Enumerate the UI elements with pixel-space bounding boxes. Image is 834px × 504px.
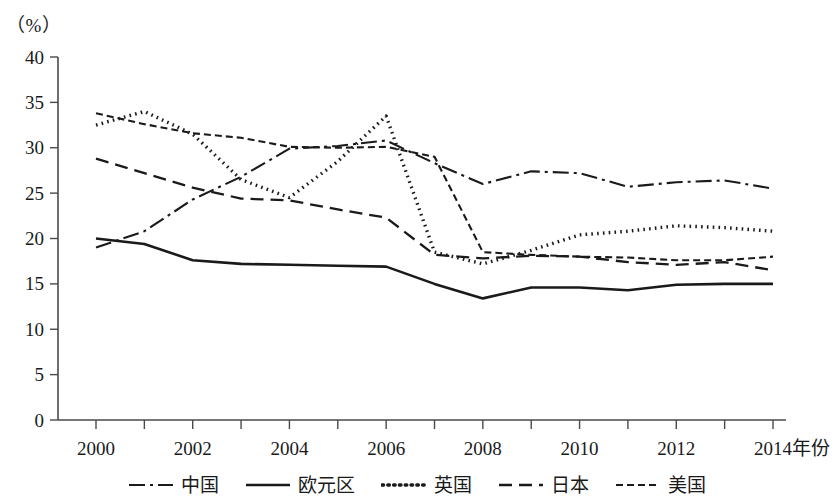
legend-line-swatch: [245, 478, 291, 492]
legend-label: 中国: [181, 476, 219, 495]
legend-item[interactable]: 英国: [381, 476, 472, 495]
chart-legend: 中国欧元区英国日本美国: [0, 466, 834, 504]
y-tick-label: 35: [25, 92, 44, 113]
legend-item[interactable]: 欧元区: [245, 476, 355, 495]
x-tick-label: 2004: [270, 438, 309, 459]
legend-label: 美国: [668, 476, 706, 495]
y-tick-label: 0: [35, 410, 45, 431]
x-tick-label: 2000: [77, 438, 115, 459]
y-tick-label: 20: [25, 228, 44, 249]
x-tick-label: 2010: [561, 438, 599, 459]
y-tick-label: 5: [35, 364, 45, 385]
x-axis: 20002002200420062008201020122014: [58, 420, 793, 459]
legend-line-swatch: [615, 478, 661, 492]
legend-line-swatch: [381, 478, 427, 492]
y-tick-label: 10: [25, 319, 44, 340]
series-line: [96, 113, 773, 260]
plot-area: 0510152025303540 20002002200420062008201…: [0, 0, 834, 466]
x-tick-label: 2002: [174, 438, 212, 459]
y-tick-label: 25: [25, 183, 44, 204]
legend-label: 日本: [551, 476, 589, 495]
y-tick-label: 15: [25, 273, 44, 294]
legend-item[interactable]: 日本: [498, 476, 589, 495]
legend-item[interactable]: 中国: [128, 476, 219, 495]
y-tick-label: 30: [25, 137, 44, 158]
line-chart: （%） 0510152025303540 2000200220042006200…: [0, 0, 834, 504]
legend-label: 欧元区: [298, 476, 355, 495]
x-tick-label: 2012: [657, 438, 695, 459]
x-tick-label: 2008: [464, 438, 502, 459]
y-axis: 0510152025303540: [25, 47, 58, 431]
legend-item[interactable]: 美国: [615, 476, 706, 495]
legend-label: 英国: [434, 476, 472, 495]
x-tick-label: 2014: [754, 438, 793, 459]
legend-line-swatch: [128, 478, 174, 492]
x-tick-label: 2006: [367, 438, 405, 459]
series-lines: [96, 111, 773, 298]
x-axis-label: 年份: [792, 438, 830, 459]
legend-line-swatch: [498, 478, 544, 492]
y-tick-label: 40: [25, 47, 44, 68]
